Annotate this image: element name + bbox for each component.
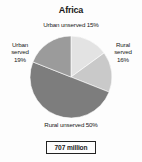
pie-chart-svg — [30, 36, 112, 118]
slice-label-rural-unserved: Rural unserved 50% — [0, 121, 142, 128]
africa-water-access-pie-figure: Africa Urban unserved 15% Urban served 1… — [0, 0, 142, 162]
pie-chart — [30, 36, 112, 118]
chart-title: Africa — [0, 5, 142, 15]
slice-label-urban-unserved: Urban unserved 15% — [0, 21, 142, 28]
total-population-box: 707 million — [46, 141, 96, 154]
total-population-value: 707 million — [55, 144, 88, 151]
